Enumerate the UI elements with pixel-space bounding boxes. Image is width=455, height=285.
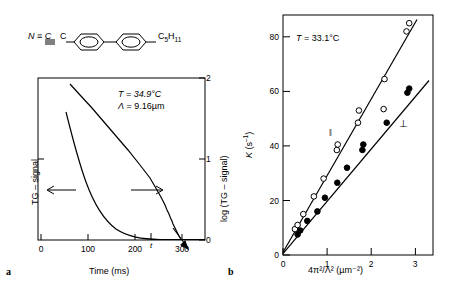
panel-a-xtick-100: 100 xyxy=(76,244,100,254)
panel-a-temperature-annotation: T = 34.9°C xyxy=(118,89,161,99)
panel-a-x-axis-title: Time (ms) xyxy=(89,266,129,276)
panel-a-tau-label: t xyxy=(145,241,157,250)
panel-a-right-tick-1: 1 xyxy=(206,154,216,164)
panel-b-series-label-perpendicular: ⊥ xyxy=(399,118,408,129)
left-arrow-annotation xyxy=(47,186,76,194)
panel-a-right-tick-0: 0 xyxy=(206,235,216,245)
panel-b-xtick-0: 0 xyxy=(276,259,290,269)
panel-a-decay-curve xyxy=(66,112,205,240)
panel-b-series-label-parallel: ‖ xyxy=(329,127,332,138)
panel-b-temperature-annotation: T = 33.1°C xyxy=(296,33,339,43)
panel-b-label: b xyxy=(228,266,234,277)
panel-a-xtick-0: 0 xyxy=(34,244,48,254)
panel-b-y-axis-title: K (s–1) xyxy=(242,132,254,158)
panel-b-fit-line-perpendicular xyxy=(283,81,429,254)
panel-b-series-parallel-points xyxy=(292,20,412,232)
panel-b-x-axis-title: 4π²/Λ² (µm⁻²) xyxy=(308,265,363,275)
panel-a-right-tick-2: 2 xyxy=(206,73,216,83)
panel-b-ytick-60: 60 xyxy=(261,86,279,96)
panel-b-xtick-1: 1 xyxy=(320,259,334,269)
panel-b-ytick-20: 20 xyxy=(261,196,279,206)
panel-a-plot xyxy=(0,0,228,285)
panel-a-lambda-annotation: Λ = 9.16µm xyxy=(118,101,164,111)
right-arrow-annotation xyxy=(131,186,163,194)
panel-a-label: a xyxy=(6,266,11,277)
figure-root: N ≡ C C C5H11 xyxy=(0,0,455,285)
panel-a-xtick-300: 300 xyxy=(170,244,194,254)
panel-a-xtick-200: 200 xyxy=(123,244,147,254)
panel-b-xtick-2: 2 xyxy=(364,259,378,269)
panel-a-left-axis-title: TG – signal xyxy=(30,159,40,205)
panel-b-series-perpendicular-points xyxy=(295,86,412,238)
panel-b-xtick-3: 3 xyxy=(408,259,422,269)
panel-b-ytick-80: 80 xyxy=(261,32,279,42)
panel-b-ytick-40: 40 xyxy=(261,141,279,151)
